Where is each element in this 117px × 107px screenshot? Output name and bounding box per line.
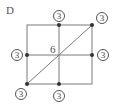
node-bottom-middle (57, 82, 61, 86)
label-bottom-left: 3 (15, 88, 27, 100)
node-top-middle (57, 23, 61, 27)
grid-diagram: D 6 3 3 3 3 3 3 (0, 0, 117, 107)
label-bottom-middle: 3 (53, 90, 65, 102)
label-top-middle: 3 (53, 10, 65, 22)
center-value: 6 (50, 43, 56, 55)
label-top-right: 3 (96, 12, 108, 24)
node-middle-left (25, 53, 29, 57)
label-middle-right: 3 (97, 49, 109, 61)
node-middle-right (90, 53, 94, 57)
node-bottom-left (25, 82, 29, 86)
node-top-right (90, 23, 94, 27)
label-middle-left: 3 (11, 49, 23, 61)
panel-label: D (6, 4, 14, 16)
